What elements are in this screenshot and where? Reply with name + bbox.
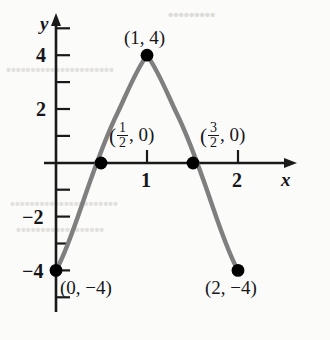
- right-root-numerator: 3: [208, 121, 219, 135]
- y-tick-label-neg4: −4: [22, 261, 43, 281]
- point-left-root: [95, 157, 108, 170]
- left-root-numerator: 1: [117, 121, 128, 135]
- x-axis: [44, 158, 297, 168]
- point-left-endpoint: [50, 264, 63, 277]
- peak-label: (1, 4): [124, 28, 165, 47]
- left-root-denominator: 2: [117, 135, 128, 150]
- point-right-root: [187, 157, 200, 170]
- right-root-label: (32, 0): [200, 122, 245, 152]
- left-root-label: (12, 0): [109, 122, 154, 152]
- y-tick-label-4: 4: [36, 45, 46, 65]
- point-right-endpoint: [232, 264, 245, 277]
- right-root-fraction: 32: [208, 121, 219, 151]
- left-endpoint-label: (0, −4): [60, 278, 112, 297]
- left-root-fraction: 12: [117, 121, 128, 151]
- graph-figure: ••••••••• •••••••••••••••••••••• •••••••…: [0, 0, 330, 340]
- y-tick-label-neg2: −2: [22, 207, 43, 227]
- y-axis-label: y: [40, 14, 48, 33]
- right-root-denominator: 2: [208, 135, 219, 150]
- x-tick-label-2: 2: [232, 170, 242, 190]
- right-endpoint-label: (2, −4): [205, 278, 257, 297]
- x-tick-label-1: 1: [141, 170, 151, 190]
- right-root-open-paren: (: [200, 124, 207, 148]
- y-tick-label-2: 2: [36, 99, 46, 119]
- point-peak: [141, 49, 154, 62]
- left-root-close-text: , 0): [129, 124, 154, 145]
- left-root-open-paren: (: [109, 124, 116, 148]
- x-axis-label: x: [281, 170, 291, 189]
- right-root-close-text: , 0): [220, 124, 245, 145]
